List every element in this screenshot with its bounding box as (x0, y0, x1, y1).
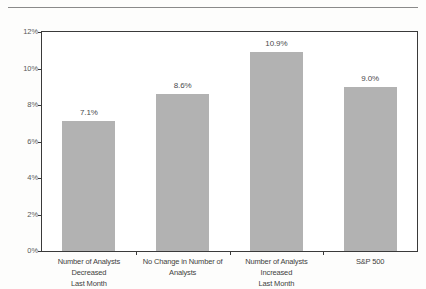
y-tick-label: 6% (2, 138, 38, 146)
bar-value-label: 7.1% (59, 109, 119, 117)
y-tick-label: 4% (2, 174, 38, 182)
category-label-line: S&P 500 (323, 256, 417, 267)
y-tick-mark (38, 251, 41, 252)
top-horizontal-rule (8, 7, 418, 8)
bar-value-label: 10.9% (246, 40, 306, 48)
x-tick-mark (230, 252, 231, 255)
y-tick-mark (38, 215, 41, 216)
bar (250, 52, 303, 251)
x-axis-category-label: Number of Analysts IncreasedLast Month (230, 256, 324, 289)
y-tick-mark (38, 32, 41, 33)
y-tick-mark (38, 178, 41, 179)
x-tick-mark (136, 252, 137, 255)
plot-area (42, 32, 417, 251)
y-tick-label: 2% (2, 211, 38, 219)
category-label-line: Number of Analysts Decreased (42, 256, 136, 278)
category-label-line: Number of Analysts Increased (230, 256, 324, 278)
y-tick-label: 8% (2, 101, 38, 109)
y-tick-label: 12% (2, 28, 38, 36)
y-tick-mark (38, 105, 41, 106)
bar-value-label: 9.0% (340, 75, 400, 83)
category-label-line: No Change in Number of (136, 256, 230, 267)
category-label-line: Last Month (230, 278, 324, 289)
y-tick-mark (38, 142, 41, 143)
y-tick-label: 10% (2, 65, 38, 73)
x-tick-mark (323, 252, 324, 255)
x-axis-category-label: Number of Analysts DecreasedLast Month (42, 256, 136, 289)
bar (156, 94, 209, 251)
y-tick-label: 0% (2, 247, 38, 255)
category-label-line: Last Month (42, 278, 136, 289)
x-axis-category-label: No Change in Number ofAnalysts (136, 256, 230, 278)
bar (62, 121, 115, 251)
bar (344, 87, 397, 251)
bar-value-label: 8.6% (153, 82, 213, 90)
category-label-line: Analysts (136, 267, 230, 278)
y-tick-mark (38, 69, 41, 70)
x-axis-category-label: S&P 500 (323, 256, 417, 267)
